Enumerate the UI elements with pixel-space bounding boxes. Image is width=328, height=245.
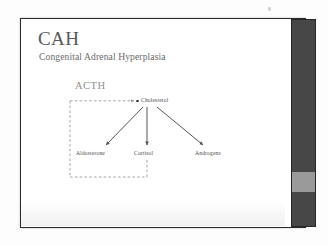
scrollbar-thumb[interactable] (292, 172, 315, 192)
node-label-cholesterol: Cholesterol (141, 98, 168, 104)
diagram-graphics (21, 19, 285, 226)
node-label-acth: ACTH (75, 81, 106, 92)
slide-viewer: CAH Congenital Adrenal Hyperplasia (0, 0, 328, 245)
node-label-androgens: Androgens (195, 151, 221, 157)
vertical-scrollbar[interactable] (291, 19, 316, 227)
cholesterol-node-dot (136, 100, 139, 103)
page-mark-icon (268, 7, 271, 11)
arrow-cholesterol-to-androgens (157, 107, 203, 145)
node-label-cortisol: Cortisol (134, 151, 153, 157)
arrow-cholesterol-to-aldosterone (106, 107, 143, 145)
node-label-aldosterone: Aldosterone (76, 151, 105, 157)
slide-frame: CAH Congenital Adrenal Hyperplasia (20, 18, 306, 228)
steroidogenesis-diagram: ACTH Cholesterol Aldosterone Cortisol An… (21, 19, 285, 226)
slide-canvas: CAH Congenital Adrenal Hyperplasia (21, 19, 285, 226)
